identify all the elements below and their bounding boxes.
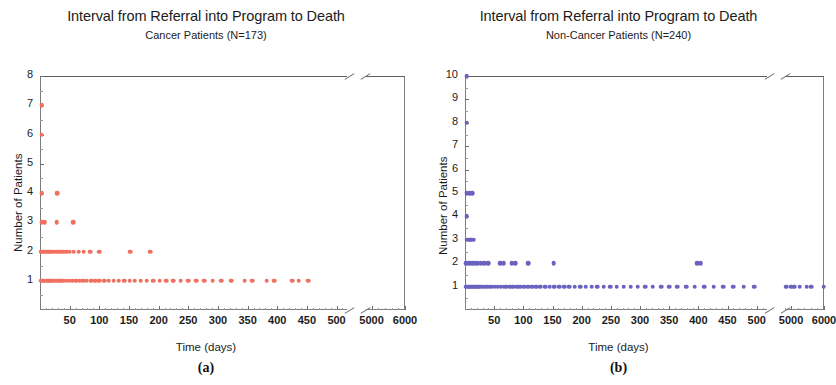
data-point [675, 284, 680, 289]
data-point [562, 284, 567, 289]
data-point [464, 214, 469, 219]
data-point [614, 284, 619, 289]
data-point [589, 284, 594, 289]
data-point [797, 284, 802, 289]
data-point [76, 249, 81, 254]
data-point [178, 278, 183, 283]
data-point [264, 278, 269, 283]
data-point [55, 191, 60, 196]
data-point [702, 284, 707, 289]
data-point [117, 278, 122, 283]
data-point [651, 284, 656, 289]
data-point [158, 278, 163, 283]
data-point [97, 249, 102, 254]
data-point [567, 284, 572, 289]
data-point [290, 278, 295, 283]
data-point [229, 278, 234, 283]
data-point [659, 284, 664, 289]
data-point [250, 278, 255, 283]
data-point [578, 284, 583, 289]
data-point [809, 284, 814, 289]
data-point [111, 278, 116, 283]
data-point [608, 284, 613, 289]
data-point [792, 284, 797, 289]
data-point [635, 284, 640, 289]
data-point [470, 191, 475, 196]
data-point [210, 278, 215, 283]
panel-a: Interval from Referral into Program to D… [0, 0, 412, 385]
data-point [464, 121, 469, 126]
data-point [128, 249, 133, 254]
data-point [88, 249, 93, 254]
data-point [464, 74, 469, 79]
data-point [698, 261, 703, 266]
data-point [721, 284, 726, 289]
data-point [171, 278, 176, 283]
data-point [296, 278, 301, 283]
data-point [486, 261, 491, 266]
data-point [784, 284, 789, 289]
data-point [82, 249, 87, 254]
data-point [513, 261, 518, 266]
data-point [551, 261, 556, 266]
data-point [501, 261, 506, 266]
data-point [643, 284, 648, 289]
data-point [71, 220, 76, 225]
data-point [272, 278, 277, 283]
data-point [742, 284, 747, 289]
data-point [628, 284, 633, 289]
data-point [164, 278, 169, 283]
data-point [821, 284, 826, 289]
data-point [202, 278, 207, 283]
data-point [219, 278, 224, 283]
data-point [667, 284, 672, 289]
data-point [731, 284, 736, 289]
data-point [39, 191, 44, 196]
data-point [306, 278, 311, 283]
data-point [39, 132, 44, 137]
data-point [526, 261, 531, 266]
data-point [583, 284, 588, 289]
data-point [42, 220, 47, 225]
data-point [39, 103, 44, 108]
data-point [144, 278, 149, 283]
data-point [133, 278, 138, 283]
data-point [139, 278, 144, 283]
data-point [186, 278, 191, 283]
data-point [693, 284, 698, 289]
data-point [602, 284, 607, 289]
data-point [151, 278, 156, 283]
data-point [621, 284, 626, 289]
data-point [752, 284, 757, 289]
data-point [595, 284, 600, 289]
data-point [148, 249, 153, 254]
data-point [711, 284, 716, 289]
panel-a-data-points [0, 0, 412, 385]
data-point [242, 278, 247, 283]
data-point [572, 284, 577, 289]
panel-b-data-points [412, 0, 825, 385]
data-point [684, 284, 689, 289]
panel-b: Interval from Referral into Program to D… [412, 0, 825, 385]
data-point [471, 238, 476, 243]
data-point [122, 278, 127, 283]
data-point [557, 284, 562, 289]
data-point [194, 278, 199, 283]
data-point [127, 278, 132, 283]
data-point [54, 220, 59, 225]
